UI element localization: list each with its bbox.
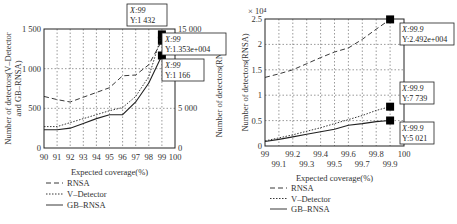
svg-text:X:99: X:99 (164, 35, 181, 44)
svg-text:X:99.9: X:99.9 (401, 124, 424, 133)
svg-text:X:99: X:99 (164, 61, 181, 70)
svg-text:99: 99 (158, 152, 167, 162)
x-axis-label: Expected coverage(%) (71, 167, 148, 177)
svg-text:92: 92 (66, 152, 75, 162)
svg-text:99.7: 99.7 (355, 159, 370, 169)
svg-text:0: 0 (178, 143, 182, 153)
series-gb-rnsa (44, 55, 162, 129)
legend-item-rnsa: RNSA (291, 183, 315, 193)
svg-text:99.6: 99.6 (341, 149, 356, 159)
svg-text:91: 91 (53, 152, 62, 162)
svg-text:99.9: 99.9 (383, 159, 398, 169)
svg-text:Y:2.492e+004: Y:2.492e+004 (402, 35, 447, 44)
y-axis-label-left: Number of detectors(V–Detector (3, 32, 13, 145)
svg-text:2: 2 (258, 39, 262, 49)
left-chart: 9091929394959697989910005001 0001 50005 … (3, 4, 226, 210)
legend-item-v-detector: V–Detector (67, 189, 107, 199)
svg-text:X:99.9: X:99.9 (401, 25, 424, 34)
x-axis-label: Expected coverage(%) (296, 173, 373, 183)
svg-text:0: 0 (258, 141, 262, 151)
series-rnsa (44, 41, 162, 102)
series-rnsa (265, 19, 390, 77)
svg-text:Y:1 166: Y:1 166 (165, 71, 190, 80)
legend-item-rnsa: RNSA (67, 178, 91, 188)
y-axis-label: Number of detectors(RNSA) (240, 33, 250, 131)
data-marker (386, 103, 394, 111)
series-gb-rnsa (265, 120, 390, 141)
svg-text:99: 99 (261, 149, 270, 159)
svg-text:100: 100 (169, 152, 182, 162)
svg-text:1: 1 (258, 90, 262, 100)
svg-text:and GB–RNSA): and GB–RNSA) (13, 60, 23, 116)
svg-text:100: 100 (398, 149, 411, 159)
svg-text:99.4: 99.4 (313, 149, 329, 159)
svg-text:93: 93 (79, 152, 88, 162)
svg-text:Y:5 021: Y:5 021 (402, 134, 427, 143)
svg-text:500: 500 (28, 103, 41, 113)
svg-text:96: 96 (118, 152, 127, 162)
svg-text:95: 95 (105, 152, 114, 162)
svg-text:97: 97 (131, 152, 140, 162)
data-marker (386, 116, 394, 124)
svg-text:99.8: 99.8 (369, 149, 384, 159)
legend-item-gb-rnsa: GB–RNSA (291, 204, 331, 214)
svg-text:99.5: 99.5 (327, 159, 342, 169)
svg-text:98: 98 (145, 152, 154, 162)
right-chart: 9999.299.499.699.810099.199.399.599.799.… (240, 6, 454, 214)
series-v-detector (44, 34, 162, 126)
svg-text:1 500: 1 500 (22, 24, 41, 34)
svg-text:90: 90 (40, 152, 49, 162)
svg-text:5 000: 5 000 (178, 103, 197, 113)
svg-text:0: 0 (37, 143, 41, 153)
y-multiplier: × 10⁴ (248, 6, 266, 16)
legend-item-v-detector: V–Detector (291, 194, 331, 204)
svg-text:Y:7 739: Y:7 739 (402, 94, 427, 103)
svg-text:94: 94 (92, 152, 101, 162)
svg-text:0.5: 0.5 (251, 116, 262, 126)
svg-text:99.3: 99.3 (299, 159, 314, 169)
svg-text:15 000: 15 000 (178, 24, 201, 34)
svg-text:1 000: 1 000 (22, 64, 41, 74)
svg-text:1.5: 1.5 (251, 65, 262, 75)
svg-text:X:99: X:99 (129, 6, 146, 15)
legend-item-gb-rnsa: GB–RNSA (67, 200, 107, 210)
svg-text:99.1: 99.1 (271, 159, 286, 169)
svg-text:X:99.9: X:99.9 (401, 84, 424, 93)
figure-canvas: 9091929394959697989910005001 0001 50005 … (0, 0, 457, 224)
svg-text:Y:1.353e+004: Y:1.353e+004 (165, 45, 210, 54)
data-marker (386, 15, 394, 23)
series-v-detector (265, 107, 390, 141)
svg-text:99.2: 99.2 (285, 149, 300, 159)
svg-text:Y:1 432: Y:1 432 (130, 16, 155, 25)
